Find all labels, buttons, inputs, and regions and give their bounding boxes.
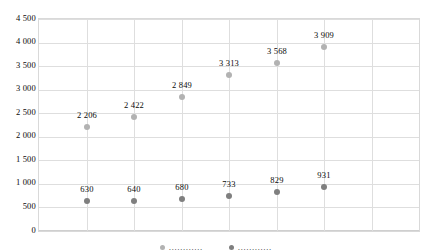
data-point-marker[interactable] [84,198,90,204]
data-point-label: 640 [127,185,140,194]
y-axis-tick-label: 3 000 [2,84,36,93]
data-point-label: 630 [80,185,93,194]
gridline-vertical [324,19,325,231]
data-point-label: 829 [270,176,283,185]
data-point-label: 680 [175,183,188,192]
legend-label: ………… [238,243,272,252]
data-point-label: 3 313 [219,59,239,68]
data-point-marker[interactable] [274,189,280,195]
y-axis-tick-label: 1 000 [2,178,36,187]
data-point-label: 3 568 [267,47,287,56]
data-point-label: 2 206 [77,111,97,120]
data-point-label: 931 [317,171,330,180]
data-point-label: 733 [222,180,235,189]
y-axis-tick-label: 2 500 [2,108,36,117]
gridline-vertical [372,19,373,231]
chart-container: 4 5004 0003 5003 0002 5002 0001 5001 000… [0,0,431,252]
legend-swatch-icon [229,245,234,250]
plot-area: 2 2062 4222 8493 3133 5683 9096306406807… [38,18,420,232]
y-axis-tick-label: 500 [2,202,36,211]
legend-entry[interactable]: ………… [160,243,203,252]
data-point-marker[interactable] [226,193,232,199]
data-point-marker[interactable] [274,60,280,66]
data-point-marker[interactable] [179,196,185,202]
data-point-marker[interactable] [131,114,137,120]
data-point-marker[interactable] [131,198,137,204]
y-axis-tick-label: 0 [2,226,36,235]
legend-entry[interactable]: ………… [229,243,272,252]
y-axis-tick-label: 1 500 [2,155,36,164]
chart-legend: …………………… [0,243,431,252]
data-point-marker[interactable] [226,72,232,78]
data-point-label: 3 909 [314,31,334,40]
y-axis-tick-label: 4 000 [2,37,36,46]
data-point-marker[interactable] [84,124,90,130]
legend-swatch-icon [160,245,165,250]
data-point-marker[interactable] [179,94,185,100]
data-point-marker[interactable] [321,44,327,50]
data-point-marker[interactable] [321,184,327,190]
y-axis-tick-label: 4 500 [2,14,36,23]
y-axis-tick-label: 2 000 [2,131,36,140]
y-axis-tick-labels: 4 5004 0003 5003 0002 5002 0001 5001 000… [0,18,36,232]
data-point-label: 2 849 [172,81,192,90]
data-point-label: 2 422 [124,101,144,110]
y-axis-tick-label: 3 500 [2,61,36,70]
legend-label: ………… [169,243,203,252]
